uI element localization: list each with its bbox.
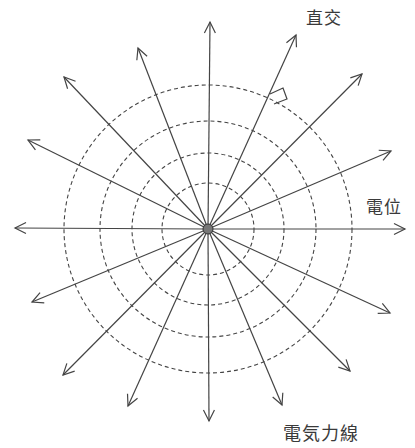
field-line-arrow xyxy=(208,35,296,229)
point-charge xyxy=(203,224,213,234)
field-line-arrow xyxy=(208,229,390,313)
field-line-arrow xyxy=(128,229,208,406)
diagram-canvas xyxy=(0,0,415,448)
field-line-arrow xyxy=(208,229,350,371)
field-line-arrow xyxy=(32,229,208,303)
field-line-arrow xyxy=(208,74,362,229)
field-line-diagram: 直交 電位 電気力線 xyxy=(0,0,415,448)
field-line-arrow xyxy=(28,140,208,229)
electric-field-lines xyxy=(15,22,405,421)
field-lines-label: 電気力線 xyxy=(283,419,359,445)
field-line-arrow xyxy=(203,229,214,421)
field-line-arrow xyxy=(208,150,391,229)
field-line-arrow xyxy=(137,48,208,229)
field-line-arrow xyxy=(208,224,405,235)
right-angle-marker xyxy=(270,88,287,104)
right-angle-mark xyxy=(270,88,287,104)
field-line-arrow xyxy=(15,223,208,234)
field-line-arrow xyxy=(204,22,215,229)
orthogonal-label: 直交 xyxy=(306,4,342,29)
potential-label: 電位 xyxy=(366,193,402,218)
